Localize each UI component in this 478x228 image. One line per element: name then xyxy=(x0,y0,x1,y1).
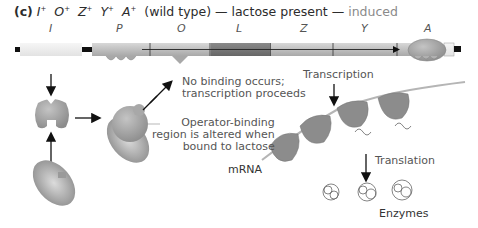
dna-end-left xyxy=(15,47,20,52)
dna-strand xyxy=(15,39,461,64)
ribosomes xyxy=(270,93,411,162)
transcription-label: Transcription xyxy=(303,69,374,81)
enzymes-cluster xyxy=(323,180,412,201)
operator-site xyxy=(172,56,188,64)
repressor-inducer-complex xyxy=(98,104,157,171)
enzymes-label: Enzymes xyxy=(379,208,428,220)
repressor-protein xyxy=(35,98,69,128)
dna-end-right xyxy=(454,46,461,52)
block-mark xyxy=(150,96,157,103)
promoter-bumps xyxy=(106,56,136,60)
i-gene-segment xyxy=(20,43,82,56)
mrna-label: mRNA xyxy=(228,164,262,176)
translation-label: Translation xyxy=(375,155,435,167)
inducer-lactose xyxy=(24,152,83,214)
no-binding-label: No binding occurs; transcription proceed… xyxy=(182,76,306,100)
operator-altered-label: Operator-binding region is altered when … xyxy=(152,117,275,153)
lac-operon-diagram xyxy=(0,0,478,228)
